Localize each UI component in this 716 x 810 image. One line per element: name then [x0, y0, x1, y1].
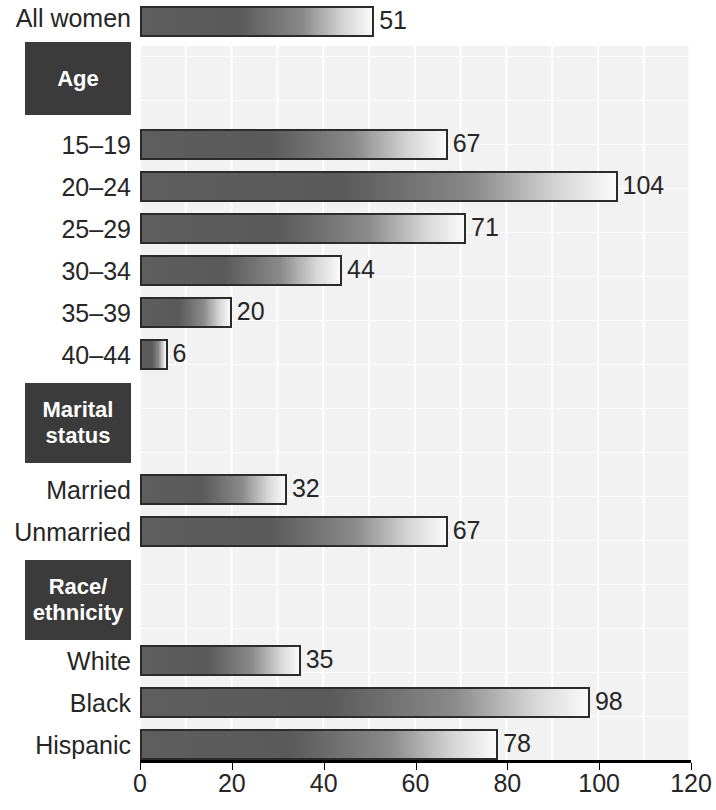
bar-value-40-44: 6: [173, 339, 187, 367]
x-axis-tick-label: 0: [110, 769, 170, 797]
x-axis-tick-label: 40: [294, 769, 354, 797]
x-axis-tick-label: 80: [477, 769, 537, 797]
row-label-30-34: 30–34: [0, 257, 131, 285]
row-label-black: Black: [0, 689, 131, 717]
row-label-20-24: 20–24: [0, 173, 131, 201]
row-label-unmarried: Unmarried: [0, 518, 131, 546]
bar-value-all-women: 51: [379, 6, 407, 34]
group-header-marital-status: Marital status: [25, 383, 131, 463]
x-axis-tick-label: 20: [202, 769, 262, 797]
group-header-marital-status-line1: Marital: [43, 397, 114, 423]
row-label-35-39: 35–39: [0, 299, 131, 327]
group-header-age: Age: [25, 42, 131, 115]
group-header-race-ethnicity-line2: ethnicity: [33, 600, 123, 626]
row-label-married: Married: [0, 476, 131, 504]
bar-all-women: [140, 6, 374, 37]
row-label-40-44: 40–44: [0, 341, 131, 369]
bar-unmarried: [140, 516, 448, 547]
bar-value-30-34: 44: [347, 255, 375, 283]
bar-value-25-29: 71: [471, 213, 499, 241]
bar-value-married: 32: [292, 474, 320, 502]
x-axis-tick-label: 100: [569, 769, 629, 797]
group-header-race-ethnicity: Race/ ethnicity: [25, 560, 131, 640]
bar-black: [140, 687, 590, 718]
row-label-hispanic: Hispanic: [0, 731, 131, 759]
group-header-race-ethnicity-line1: Race/: [49, 574, 108, 600]
group-header-age-line1: Age: [57, 66, 99, 92]
bar-15-19: [140, 129, 448, 160]
row-label-white: White: [0, 647, 131, 675]
bar-value-unmarried: 67: [453, 516, 481, 544]
bar-25-29: [140, 213, 466, 244]
row-label-15-19: 15–19: [0, 131, 131, 159]
x-axis-tick-label: 60: [386, 769, 446, 797]
bar-value-hispanic: 78: [503, 729, 531, 757]
bar-20-24: [140, 171, 618, 202]
bar-value-15-19: 67: [453, 129, 481, 157]
bar-value-white: 35: [306, 645, 334, 673]
group-header-marital-status-line2: status: [46, 423, 111, 449]
x-axis-tick-label: 120: [661, 769, 716, 797]
bar-40-44: [140, 339, 168, 370]
row-label-25-29: 25–29: [0, 215, 131, 243]
bar-married: [140, 474, 287, 505]
bar-value-black: 98: [595, 687, 623, 715]
bar-white: [140, 645, 301, 676]
bar-value-35-39: 20: [237, 297, 265, 325]
bar-value-20-24: 104: [623, 171, 665, 199]
row-label-all-women: All women: [0, 4, 131, 32]
bar-35-39: [140, 297, 232, 328]
bar-hispanic: [140, 729, 498, 760]
bar-30-34: [140, 255, 342, 286]
